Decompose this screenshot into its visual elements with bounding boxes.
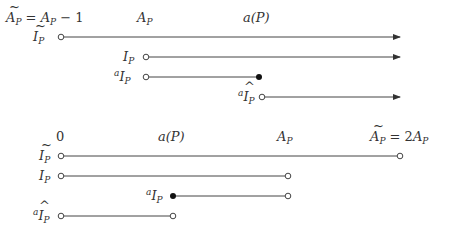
svg-text:^: ^ [39,198,50,213]
bottom-row-aip: aIP [146,187,291,205]
open-endpoint-icon [58,173,64,179]
bottom-axis-label-ap-func: a(P) [158,129,185,144]
bottom-row-itilde: IP ~ [38,137,403,165]
bottom-row-ip: IP [38,168,291,185]
open-endpoint-icon [58,153,64,159]
open-endpoint-icon [259,94,265,100]
top-row-aip: aIP [114,68,262,86]
svg-text:IP: IP [122,49,135,66]
svg-text:a(P): a(P) [243,10,270,25]
top-row-ip: IP [122,49,400,66]
filled-endpoint-icon [256,74,262,80]
svg-text:0: 0 [56,129,64,144]
svg-text:~: ~ [35,18,46,33]
top-diagram: AP = AP − 1 ~ AP a(P) IP ~ IP aIP [5,0,400,106]
open-endpoint-icon [143,74,149,80]
svg-text:aIP: aIP [114,68,132,86]
svg-text:a(P): a(P) [158,129,185,144]
open-endpoint-icon [58,213,64,219]
svg-text:~: ~ [41,137,52,152]
open-endpoint-icon [143,54,149,60]
open-endpoint-icon [285,173,291,179]
open-endpoint-icon [58,34,64,40]
bottom-axis-label-atilde: AP = 2AP ~ [369,118,429,146]
top-row-itilde: IP ~ [32,18,400,46]
top-row-aihat: aIP ^ [238,79,400,106]
open-endpoint-icon [170,213,176,219]
bottom-diagram: 0 a(P) AP AP = 2AP ~ IP ~ IP aIP [33,118,429,225]
top-axis-label-ap-func: a(P) [243,10,270,25]
top-axis-label-ap: AP [136,10,153,27]
svg-text:~: ~ [9,0,20,14]
filled-endpoint-icon [170,193,176,199]
bottom-axis-label-zero: 0 [56,129,64,144]
svg-text:aIP: aIP [146,187,164,205]
open-endpoint-icon [397,153,403,159]
open-endpoint-icon [285,193,291,199]
svg-text:~: ~ [373,118,384,133]
svg-text:AP: AP [136,10,153,27]
svg-text:AP: AP [276,129,293,146]
bottom-axis-label-ap: AP [276,129,293,146]
svg-text:IP: IP [38,168,51,185]
svg-text:^: ^ [244,79,255,94]
